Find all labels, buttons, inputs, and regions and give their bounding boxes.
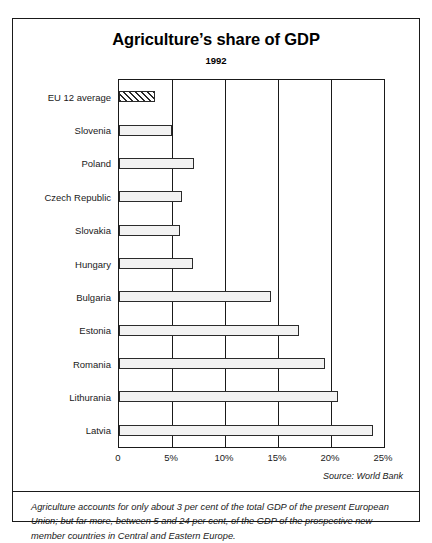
bar-row: Estonia: [119, 325, 384, 336]
bar-row: Lithurania: [119, 391, 384, 402]
bar-category-label: Bulgaria: [76, 291, 111, 302]
bar: [119, 391, 338, 402]
bar-category-label: Estonia: [79, 325, 111, 336]
bar: [119, 225, 180, 236]
bar-row: Latvia: [119, 425, 384, 436]
source-note: Source: World Bank: [323, 471, 403, 481]
bar-category-label: Poland: [81, 158, 111, 169]
bar: [119, 158, 194, 169]
x-axis-tick-label: 0: [115, 452, 120, 463]
bar-category-label: EU 12 average: [48, 91, 111, 102]
bar: [119, 191, 182, 202]
plot-area: EU 12 averageSloveniaPolandCzech Republi…: [118, 79, 385, 448]
bar: [119, 291, 271, 302]
bar: [119, 325, 299, 336]
x-axis-tick-label: 25%: [373, 452, 392, 463]
x-axis-tick-label: 15%: [267, 452, 286, 463]
bar-category-label: Slovenia: [75, 125, 111, 136]
chart-title: Agriculture’s share of GDP: [13, 30, 419, 49]
bar-category-label: Latvia: [86, 425, 111, 436]
bar-category-label: Lithurania: [69, 391, 111, 402]
x-axis-tick-label: 10%: [214, 452, 233, 463]
bar-row: Slovakia: [119, 225, 384, 236]
bar-category-label: Czech Republic: [44, 191, 111, 202]
bar-row: Hungary: [119, 258, 384, 269]
bar: [119, 125, 172, 136]
chart-figure: Agriculture’s share of GDP 1992 EU 12 av…: [12, 18, 420, 522]
chart-caption: Agriculture accounts for only about 3 pe…: [31, 500, 403, 543]
bar-row: EU 12 average: [119, 91, 384, 102]
bar-category-label: Slovakia: [75, 225, 111, 236]
bar: [119, 258, 193, 269]
bar-row: Poland: [119, 158, 384, 169]
chart-subtitle: 1992: [13, 55, 419, 66]
x-axis-tick-label: 20%: [320, 452, 339, 463]
bar-row: Czech Republic: [119, 191, 384, 202]
bar: [119, 358, 325, 369]
bar-row: Romania: [119, 358, 384, 369]
bar-row: Slovenia: [119, 125, 384, 136]
bar-category-label: Hungary: [75, 258, 111, 269]
bar: [119, 91, 155, 102]
x-axis-tick-label: 5%: [164, 452, 178, 463]
bar-category-label: Romania: [73, 358, 111, 369]
bar: [119, 425, 373, 436]
bar-row: Bulgaria: [119, 291, 384, 302]
caption-divider: [13, 491, 419, 492]
